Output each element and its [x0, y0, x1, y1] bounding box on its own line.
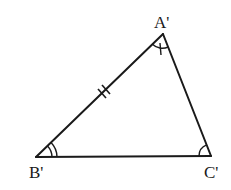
- vertex-label-a: A': [154, 13, 169, 32]
- side-a-c: [163, 34, 211, 156]
- angle-mark-a: [153, 43, 169, 55]
- vertex-label-b: B': [29, 163, 43, 182]
- vertex-label-c: C': [204, 163, 218, 182]
- side-b-c: [36, 156, 211, 157]
- side-a-b: [36, 34, 163, 157]
- triangle-diagram: A' B' C': [0, 0, 231, 190]
- angle-mark-c: [199, 145, 207, 156]
